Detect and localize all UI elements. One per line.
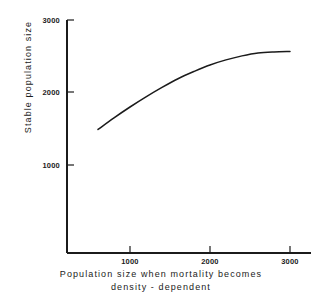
- x-axis-title-line1: Population size when mortality becomes: [60, 269, 262, 279]
- data-curve: [98, 52, 290, 130]
- y-axis-title: Stable population size: [23, 0, 33, 157]
- x-tick-label-1000: 1000: [115, 257, 145, 266]
- y-tick-label-3000: 3000: [32, 16, 60, 25]
- chart-figure: 3000 2000 1000 1000 2000 3000 Stable pop…: [0, 0, 322, 303]
- y-tick-label-2000: 2000: [32, 88, 60, 97]
- y-tick-label-1000: 1000: [32, 161, 60, 170]
- x-axis-title: Population size when mortality becomes d…: [0, 268, 322, 294]
- plot-canvas: [0, 0, 322, 303]
- x-axis-title-line2: density - dependent: [0, 281, 322, 294]
- x-tick-label-3000: 3000: [275, 257, 305, 266]
- x-tick-label-2000: 2000: [195, 257, 225, 266]
